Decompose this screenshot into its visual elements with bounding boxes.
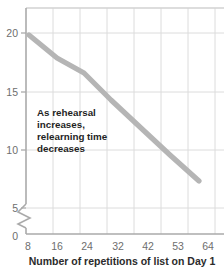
annotation-line-4: decreases bbox=[37, 143, 85, 154]
x-tick-label-24: 24 bbox=[81, 240, 93, 252]
annotation-line-3: relearning time bbox=[37, 131, 108, 142]
annotation-line-2: increases, bbox=[37, 119, 85, 130]
line-chart: 20 15 10 5 0 8 16 24 32 42 53 64 As rehe… bbox=[0, 0, 224, 269]
y-tick-label-10: 10 bbox=[6, 144, 18, 156]
x-tick-label-53: 53 bbox=[172, 240, 184, 252]
y-tick-label-20: 20 bbox=[6, 27, 18, 39]
chart-canvas: 20 15 10 5 0 8 16 24 32 42 53 64 As rehe… bbox=[0, 0, 224, 269]
x-tick-label-16: 16 bbox=[51, 240, 63, 252]
x-tick-label-8: 8 bbox=[25, 240, 31, 252]
annotation-line-1: As rehearsal bbox=[37, 107, 96, 118]
x-tick-label-64: 64 bbox=[202, 240, 214, 252]
x-tick-label-32: 32 bbox=[112, 240, 124, 252]
y-tick-label-5: 5 bbox=[12, 202, 18, 214]
x-tick-label-42: 42 bbox=[142, 240, 154, 252]
y-tick-label-0: 0 bbox=[12, 230, 18, 242]
x-axis-title: Number of repetitions of list on Day 1 bbox=[29, 255, 216, 267]
y-tick-label-15: 15 bbox=[6, 86, 18, 98]
